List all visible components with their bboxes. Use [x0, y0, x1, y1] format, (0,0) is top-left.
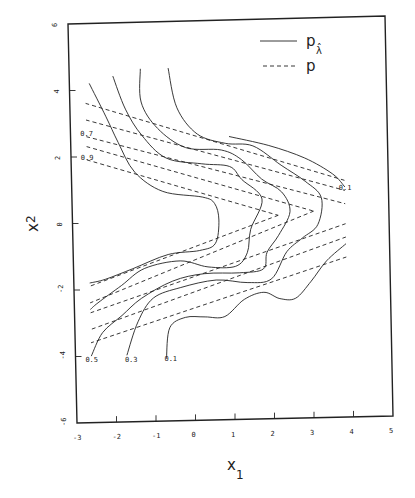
y-tick-label: 0: [56, 222, 64, 226]
estimated-density-contour: [127, 68, 322, 355]
true-density-contour: [87, 160, 278, 215]
x-tick-label: 3: [310, 429, 314, 437]
x-tick-label: 0: [192, 431, 196, 439]
contour-level-label: 0.1: [339, 184, 352, 192]
plot-frame: [68, 16, 393, 423]
y-axis-title-sub: 2: [24, 215, 38, 223]
contour-level-label: 0.3: [125, 356, 138, 364]
x-tick-label: -1: [152, 432, 160, 440]
y-tick-label: 2: [54, 156, 62, 160]
estimated-density-contour: [167, 244, 347, 358]
legend-dashed-label: p: [306, 57, 316, 75]
estimated-density-contour: [89, 83, 219, 283]
y-axis-title: x 2: [24, 215, 42, 232]
y-tick-label: -4: [59, 351, 67, 359]
contour-level-label: 0.9: [81, 154, 94, 162]
contour-labels: 0.70.90.10.50.30.1: [80, 130, 351, 364]
true-density-contour: [86, 137, 345, 204]
contour-level-label: 0.1: [164, 355, 177, 363]
x-tick-label: -3: [73, 434, 81, 442]
true-density-contour: [87, 147, 314, 212]
legend: p λ̂ p: [260, 32, 322, 75]
true-density-contour: [90, 211, 314, 303]
legend-solid-label: p: [306, 32, 316, 50]
legend-solid-sub: λ̂: [316, 43, 322, 56]
contour-chart: -3-2-1012345-6-4-20246 0.70.90.10.50.30.…: [0, 0, 415, 498]
y-tick-label: 6: [51, 23, 59, 27]
estimated-density-contour: [91, 69, 290, 356]
x-tick-label: 1: [231, 431, 235, 439]
true-density-contour: [90, 215, 279, 286]
x-axis-title-sub: 1: [236, 468, 244, 482]
true-density-contour: [86, 120, 345, 190]
contour-level-label: 0.7: [80, 130, 93, 138]
axis-ticks: -3-2-1012345-6-4-20246: [51, 23, 393, 442]
contour-level-label: 0.5: [85, 356, 98, 364]
y-tick-label: 4: [53, 89, 61, 93]
y-axis-title-text: x: [24, 223, 42, 232]
true-density-contour: [91, 237, 346, 330]
x-tick-label: 2: [271, 430, 275, 438]
x-axis-title: x 1: [227, 456, 244, 482]
y-tick-label: -2: [57, 285, 65, 293]
true-density-contour: [86, 103, 345, 180]
x-tick-label: 5: [389, 427, 393, 435]
x-tick-label: -2: [113, 433, 121, 441]
y-tick-label: -6: [60, 418, 68, 426]
contour-curves: [86, 68, 347, 358]
x-axis-title-text: x: [227, 456, 236, 474]
estimated-density-contour: [90, 76, 262, 310]
x-tick-label: 4: [350, 428, 354, 436]
plot-border: [68, 16, 393, 423]
